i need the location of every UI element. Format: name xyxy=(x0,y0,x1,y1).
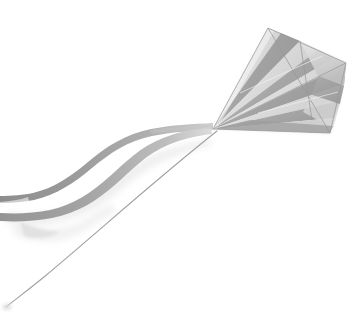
kite-photograph: A gray and white striped delta/parafoil … xyxy=(0,0,356,331)
kite-scene-svg xyxy=(0,0,356,331)
flying-line-anchor xyxy=(2,304,12,311)
